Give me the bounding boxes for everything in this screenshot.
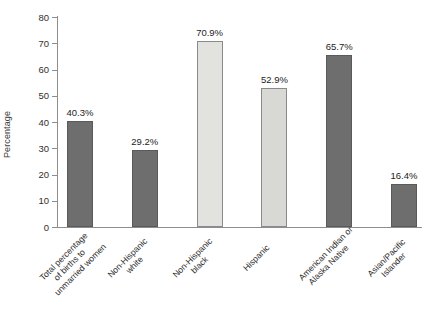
y-axis-tick [52,122,58,123]
y-axis-tick [52,175,58,176]
bar-value-label: 16.4% [383,171,425,181]
y-axis-tick [52,96,58,97]
x-axis-label-line: Hispanic [232,233,282,283]
bar [132,150,158,227]
y-axis-tick [52,227,58,228]
y-axis-tick-label: 50 [20,91,49,100]
bar-value-label: 40.3% [59,108,101,118]
y-axis-tick [52,201,58,202]
y-axis-tick-label: 70 [20,39,49,48]
bar-value-label: 70.9% [189,28,231,38]
y-axis-tick-label: 0 [20,223,49,232]
y-axis-tick-label: 60 [20,65,49,74]
bar [391,184,417,227]
y-axis-tick [52,148,58,149]
bar [326,55,352,227]
bar-chart: Percentage 01020304050607080 40.3%29.2%7… [0,0,427,332]
y-axis-tick-label: 10 [20,196,49,205]
x-axis-label: Asian/PacificIslander [362,233,419,290]
bar [261,88,287,227]
x-axis-label: Hispanic [232,233,282,283]
bar-value-label: 29.2% [124,137,166,147]
x-axis-label: Non-Hispanicwhite [102,233,159,290]
x-axis-line [57,227,422,228]
bar [67,121,93,227]
bar-value-label: 52.9% [253,75,295,85]
x-axis-label: Total percentageof births tounmarried wo… [38,233,103,298]
y-axis-tick-label: 30 [20,144,49,153]
x-axis-label: American Indian orAlaska Native [297,233,354,290]
y-axis-tick [52,70,58,71]
y-axis-tick-label: 20 [20,170,49,179]
x-axis-label: Non-Hispanicblack [167,233,224,290]
bar [197,41,223,227]
y-axis-title: Percentage [2,82,12,96]
bar-value-label: 65.7% [318,42,360,52]
y-axis-tick-label: 80 [20,13,49,22]
y-axis-tick-label: 40 [20,118,49,127]
y-axis-tick [52,17,58,18]
y-axis-title-text: Percentage [2,144,12,158]
y-axis-tick [52,43,58,44]
